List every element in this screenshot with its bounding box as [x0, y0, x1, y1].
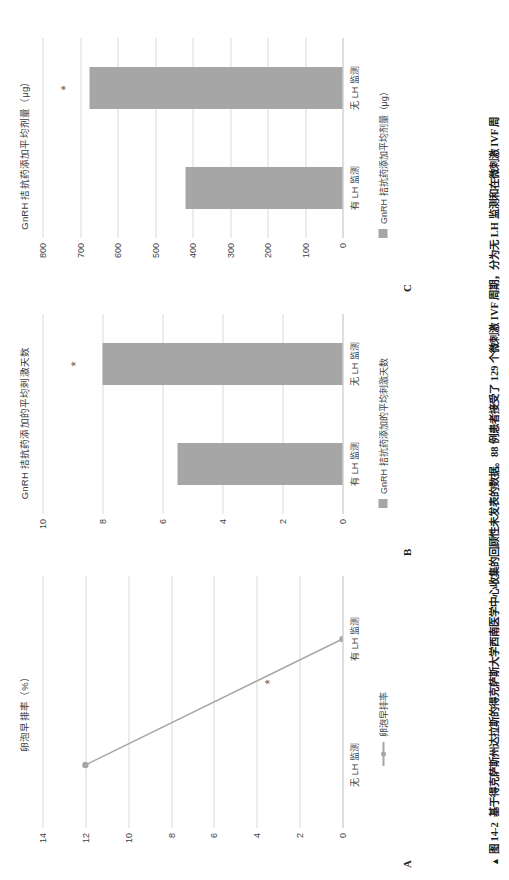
line-series — [42, 576, 342, 828]
gridline — [42, 314, 43, 514]
panel-c-title: GnRH 拮抗药添加平均剂量（μg） — [16, 22, 30, 284]
x-axis-category-label: 有 LH 监测 — [349, 617, 359, 661]
y-axis-tick-label: 8 — [97, 519, 107, 524]
panel-b-title: GnRH 拮抗药添加的平均刺激天数 — [16, 298, 30, 548]
y-axis-tick-label: 800 — [37, 243, 47, 258]
y-axis-tick-label: 100 — [300, 243, 310, 258]
panel-a-plot: 02468101214无 LH 监测有 LH 监测* — [42, 576, 342, 828]
caption-triangle-icon: ▲ — [489, 857, 499, 866]
panel-c-plot: 0100200300400500600700800有 LH 监测无 LH 监测* — [42, 38, 342, 238]
y-axis-tick-label: 10 — [123, 833, 133, 843]
significance-star: * — [263, 679, 276, 684]
y-axis-tick-label: 12 — [80, 833, 90, 843]
y-axis-tick-label: 4 — [251, 833, 261, 838]
y-axis-tick-label: 600 — [112, 243, 122, 258]
panel-b-legend-label: GnRH 拮抗药添加的平均刺激天数 — [376, 358, 389, 494]
panel-a-letter: A — [400, 860, 412, 868]
y-axis-tick-label: 700 — [75, 243, 85, 258]
y-axis-tick-label: 400 — [187, 243, 197, 258]
x-axis-category-label: 无 LH 监测 — [349, 743, 359, 787]
y-axis-tick-label: 4 — [217, 519, 227, 524]
bar — [102, 343, 342, 385]
panel-a-legend: 卵泡早排率 — [376, 692, 389, 766]
y-axis-tick-label: 2 — [277, 519, 287, 524]
y-axis-tick-label: 6 — [208, 833, 218, 838]
x-axis-category-label: 有 LH 监测 — [349, 166, 359, 210]
rotated-figure-stage: A 卵泡早排率（%） 02468101214无 LH 监测有 LH 监测* 卵泡… — [0, 0, 509, 880]
gridline — [80, 38, 81, 238]
panel-c-legend: GnRH 拮抗药添加平均剂量（μg） — [376, 87, 389, 238]
panel-b: B GnRH 拮抗药添加的平均刺激天数 0246810有 LH 监测无 LH 监… — [16, 298, 416, 548]
panel-a-legend-label: 卵泡早排率 — [376, 692, 389, 737]
bar — [89, 67, 342, 109]
y-axis-tick-label: 0 — [337, 519, 347, 524]
y-axis-tick-label: 10 — [37, 519, 47, 529]
significance-star: * — [69, 361, 82, 366]
panel-a-title: 卵泡早排率（%） — [16, 562, 30, 862]
bar-legend-swatch — [378, 499, 387, 508]
panel-a: A 卵泡早排率（%） 02468101214无 LH 监测有 LH 监测* 卵泡… — [16, 562, 416, 862]
bar — [185, 167, 343, 209]
y-axis-tick-label: 300 — [225, 243, 235, 258]
y-axis-tick-label: 8 — [166, 833, 176, 838]
y-axis-tick-label: 2 — [294, 833, 304, 838]
panel-b-letter: B — [400, 549, 412, 556]
panel-c-legend-label: GnRH 拮抗药添加平均剂量（μg） — [376, 87, 389, 224]
caption-text: 基于得克萨斯州达拉斯的得克萨斯大学西南医学中心收集的回顾性未发表的数据。88 例… — [488, 117, 499, 817]
caption-label: 图 14-2 — [488, 822, 499, 854]
panel-c-letter: C — [400, 284, 412, 292]
x-axis-category-label: 有 LH 监测 — [349, 442, 359, 486]
panel-b-legend: GnRH 拮抗药添加的平均刺激天数 — [376, 358, 389, 508]
line-legend-swatch — [378, 742, 387, 766]
data-point — [82, 762, 88, 768]
y-axis-tick-label: 14 — [37, 833, 47, 843]
bar — [177, 443, 342, 485]
figure-page: A 卵泡早排率（%） 02468101214无 LH 监测有 LH 监测* 卵泡… — [0, 0, 509, 880]
y-axis-tick-label: 6 — [157, 519, 167, 524]
y-axis-tick-label: 0 — [337, 833, 347, 838]
y-axis-tick-label: 0 — [337, 243, 347, 248]
x-axis-category-label: 无 LH 监测 — [349, 342, 359, 386]
y-axis-tick-label: 200 — [262, 243, 272, 258]
significance-star: * — [58, 85, 71, 90]
x-axis-category-label: 无 LH 监测 — [349, 66, 359, 110]
panel-c: C GnRH 拮抗药添加平均剂量（μg） 0100200300400500600… — [16, 22, 416, 284]
y-axis-tick-label: 500 — [150, 243, 160, 258]
bar-legend-swatch — [378, 229, 387, 238]
gridline — [42, 38, 43, 238]
panel-b-plot: 0246810有 LH 监测无 LH 监测* — [42, 314, 342, 514]
figure-caption: ▲图 14-2 基于得克萨斯州达拉斯的得克萨斯大学西南医学中心收集的回顾性未发表… — [486, 14, 501, 866]
